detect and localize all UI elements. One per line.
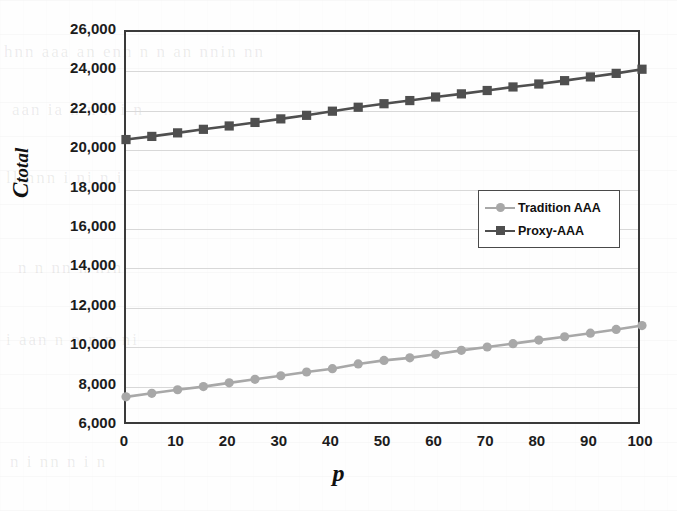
data-point-square-marker xyxy=(560,76,569,85)
data-point-square-marker xyxy=(508,82,517,91)
y-axis-tick-label: 26,000 xyxy=(0,20,116,37)
data-point-square-marker xyxy=(457,89,466,98)
x-axis-tick-label: 100 xyxy=(610,432,670,449)
data-point-circle-marker xyxy=(379,356,388,365)
data-point-circle-marker xyxy=(302,367,311,376)
y-axis-tick-label: 16,000 xyxy=(0,217,116,234)
data-point-square-marker xyxy=(379,99,388,108)
legend-item-proxy-aaa[interactable]: Proxy-AAA xyxy=(485,219,613,242)
data-point-circle-marker xyxy=(328,364,337,373)
data-point-square-marker xyxy=(637,65,646,74)
data-point-circle-marker xyxy=(560,332,569,341)
data-point-circle-marker xyxy=(250,375,259,384)
data-point-circle-marker xyxy=(457,346,466,355)
y-axis-tick-label: 22,000 xyxy=(0,99,116,116)
data-point-circle-marker xyxy=(121,392,130,401)
data-point-square-marker xyxy=(250,118,259,127)
data-point-square-marker xyxy=(405,96,414,105)
y-axis-tick-label: 6,000 xyxy=(0,414,116,431)
data-point-square-marker xyxy=(612,69,621,78)
data-point-square-marker xyxy=(276,114,285,123)
y-axis-tick-label: 14,000 xyxy=(0,256,116,273)
legend-marker-circle-icon xyxy=(485,201,515,215)
data-point-circle-marker xyxy=(534,336,543,345)
y-axis-tick-label: 10,000 xyxy=(0,335,116,352)
data-point-circle-marker xyxy=(199,382,208,391)
data-point-square-marker xyxy=(586,72,595,81)
chart-legend[interactable]: Tradition AAA Proxy-AAA xyxy=(478,190,620,248)
y-axis-tick-label: 8,000 xyxy=(0,375,116,392)
data-point-circle-marker xyxy=(637,321,646,330)
legend-label: Tradition AAA xyxy=(518,201,601,215)
legend-label: Proxy-AAA xyxy=(518,224,584,238)
data-point-square-marker xyxy=(199,125,208,134)
y-axis-title-main: C xyxy=(8,183,33,198)
data-point-square-marker xyxy=(534,79,543,88)
y-axis-title-sub: total xyxy=(11,148,32,183)
chart-figure: hnn aaa an enn n n an nnin nn aan ia n n… xyxy=(0,0,677,511)
data-point-circle-marker xyxy=(508,339,517,348)
data-point-circle-marker xyxy=(276,371,285,380)
data-point-square-marker xyxy=(173,128,182,137)
data-point-circle-marker xyxy=(354,359,363,368)
y-axis-tick-label: 12,000 xyxy=(0,296,116,313)
x-axis-title: p xyxy=(0,460,677,487)
legend-item-tradition-aaa[interactable]: Tradition AAA xyxy=(485,196,613,219)
series-1 xyxy=(121,321,646,402)
data-point-circle-marker xyxy=(612,325,621,334)
data-point-square-marker xyxy=(147,132,156,141)
series-2 xyxy=(121,65,646,145)
data-point-square-marker xyxy=(328,107,337,116)
data-point-square-marker xyxy=(431,92,440,101)
y-axis-title: Ctotal xyxy=(8,148,34,198)
data-point-square-marker xyxy=(354,103,363,112)
data-point-circle-marker xyxy=(405,353,414,362)
y-axis-tick-label: 24,000 xyxy=(0,59,116,76)
data-point-square-marker xyxy=(225,121,234,130)
data-point-circle-marker xyxy=(147,389,156,398)
data-point-circle-marker xyxy=(173,385,182,394)
data-point-circle-marker xyxy=(225,378,234,387)
data-point-circle-marker xyxy=(431,350,440,359)
data-point-circle-marker xyxy=(586,329,595,338)
data-point-circle-marker xyxy=(483,342,492,351)
data-point-square-marker xyxy=(302,111,311,120)
legend-marker-square-icon xyxy=(485,224,515,238)
data-point-square-marker xyxy=(483,86,492,95)
data-point-square-marker xyxy=(121,135,130,144)
